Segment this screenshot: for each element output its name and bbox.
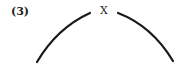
left-arc	[37, 13, 90, 62]
arc-diagram	[0, 0, 184, 84]
right-arc	[118, 13, 173, 61]
